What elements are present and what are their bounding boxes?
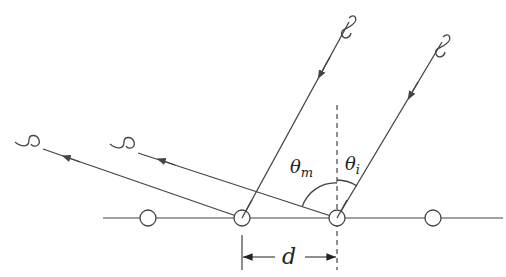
incident-ray-1 <box>242 16 356 218</box>
spacing-label: d <box>282 244 296 269</box>
atom-4 <box>425 210 441 226</box>
theta-m-arc <box>302 183 337 207</box>
wave-symbol-icon <box>110 138 134 149</box>
diffraction-diagram: θm θi d <box>0 0 506 277</box>
incident-ray-2 <box>337 35 450 218</box>
theta-m-label: θm <box>290 156 313 180</box>
wave-symbol-icon <box>342 16 356 38</box>
atom-1 <box>140 210 156 226</box>
theta-i-label: θi <box>345 153 360 177</box>
wave-symbol-icon <box>15 136 39 147</box>
theta-i-arc <box>337 180 357 186</box>
wave-symbol-icon <box>436 35 450 57</box>
